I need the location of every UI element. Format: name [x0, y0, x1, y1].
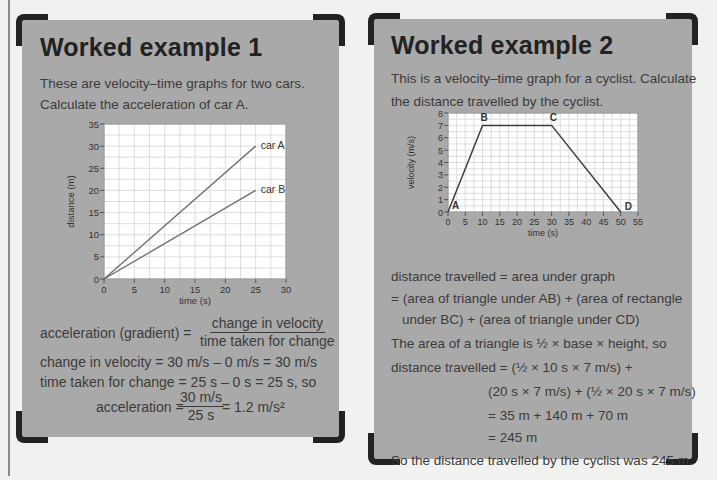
series-label: car A [261, 139, 285, 151]
result-fraction: 30 m/s 25 s [178, 389, 224, 424]
x-tick-label: 20 [220, 284, 231, 295]
x-tick-label: 10 [478, 217, 488, 227]
y-tick-label: 6 [438, 133, 443, 143]
x-tick-label: 0 [445, 217, 450, 227]
example-2-title: Worked example 2 [391, 31, 613, 60]
solution-line-8: = 245 m [488, 430, 537, 445]
solution-line-7: = 35 m + 140 m + 70 m [488, 408, 628, 423]
y-tick-label: 1 [438, 195, 443, 205]
solution-line-2: = (area of triangle under AB) + (area of… [391, 291, 682, 306]
x-tick-label: 10 [159, 284, 170, 295]
example-2-intro-line-1: This is a velocity–time graph for a cycl… [391, 71, 696, 86]
result-label: acceleration = [96, 399, 184, 415]
result-value: = 1.2 m/s² [222, 399, 285, 415]
x-tick-label: 30 [547, 217, 557, 227]
step-change-in-velocity: change in velocity = 30 m/s – 0 m/s = 30… [40, 354, 317, 370]
corner-bracket-top-right [313, 14, 345, 46]
solution-conclusion: So the distance travelled by the cyclist… [391, 453, 693, 468]
step-time-taken: time taken for change = 25 s – 0 s = 25 … [40, 374, 316, 390]
example-1-intro-line-1: These are velocity–time graphs for two c… [40, 76, 305, 91]
y-tick-label: 7 [438, 121, 443, 131]
solution-line-6: (20 s × 7 m/s) + (½ × 20 s × 7 m/s) [488, 384, 696, 399]
x-axis-label: time (s) [179, 295, 211, 306]
y-tick-label: 0 [94, 274, 99, 285]
formula-fraction: change in velocity time taken for change [200, 315, 335, 350]
x-tick-label: 5 [132, 284, 137, 295]
point-label: B [481, 112, 488, 123]
y-tick-label: 2 [438, 183, 443, 193]
solution-line-3: under BC) + (area of triangle under CD) [402, 312, 640, 327]
formula-denominator: time taken for change [200, 333, 335, 350]
x-tick-label: 50 [616, 217, 626, 227]
y-tick-label: 8 [438, 109, 443, 119]
y-tick-label: 25 [88, 163, 99, 174]
x-tick-label: 15 [495, 217, 505, 227]
corner-bracket-top-right [666, 13, 698, 45]
x-tick-label: 0 [101, 284, 106, 295]
y-tick-label: 3 [438, 170, 443, 180]
x-tick-label: 20 [512, 217, 522, 227]
x-tick-label: 40 [581, 217, 591, 227]
x-tick-label: 45 [598, 217, 608, 227]
x-tick-label: 5 [463, 217, 468, 227]
example-1-title: Worked example 1 [40, 33, 262, 62]
formula-label: acceleration (gradient) = [40, 325, 191, 341]
worked-example-1-card: Worked example 1 These are velocity–time… [22, 20, 339, 437]
x-axis-label: time (s) [528, 228, 558, 238]
result-numerator: 30 m/s [178, 389, 224, 407]
solution-line-1: distance travelled = area under graph [391, 269, 615, 284]
y-tick-label: 30 [88, 141, 99, 152]
x-tick-label: 30 [281, 284, 292, 295]
y-tick-label: 4 [438, 158, 443, 168]
y-tick-label: 0 [438, 208, 443, 218]
result-denominator: 25 s [188, 407, 214, 424]
y-tick-label: 10 [88, 229, 99, 240]
worked-example-2-card: Worked example 2 This is a velocity–time… [374, 19, 692, 459]
velocity-time-chart: 0123456780510152025303540455055time (s)v… [400, 107, 650, 243]
y-tick-label: 15 [88, 207, 99, 218]
y-tick-label: 20 [88, 185, 99, 196]
y-tick-label: 35 [88, 119, 99, 130]
corner-bracket-bottom-left [16, 411, 48, 443]
point-label: D [625, 201, 632, 212]
x-tick-label: 55 [633, 217, 643, 227]
distance-time-chart: 05101520253035051015202530time (s)distan… [60, 108, 300, 308]
x-tick-label: 35 [564, 217, 574, 227]
x-tick-label: 25 [529, 217, 539, 227]
point-label: A [452, 200, 459, 211]
solution-line-4: The area of a triangle is ½ × base × hei… [391, 336, 666, 351]
y-axis-label: velocity (m/s) [406, 136, 416, 189]
corner-bracket-bottom-right [313, 411, 345, 443]
formula-numerator: change in velocity [210, 315, 325, 333]
point-label: C [550, 112, 557, 123]
y-axis-label: distance (m) [65, 175, 76, 227]
series-label: car B [261, 183, 286, 195]
solution-line-5: distance travelled = (½ × 10 s × 7 m/s) … [391, 360, 633, 375]
y-tick-label: 5 [438, 146, 443, 156]
x-tick-label: 15 [190, 284, 201, 295]
x-tick-label: 25 [250, 284, 261, 295]
y-tick-label: 5 [94, 251, 99, 262]
page-margin-rule [8, 0, 10, 476]
